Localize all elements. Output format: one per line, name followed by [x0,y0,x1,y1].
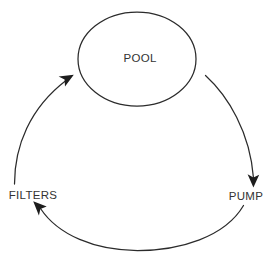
edge-filters-to-pool-line [15,81,67,185]
edge-pump-to-filters [33,201,243,250]
diagram-canvas: POOL PUMP FILTERS [0,0,276,261]
pool-circulation-diagram: POOL PUMP FILTERS [0,0,276,261]
edge-pump-to-filters-line [41,206,244,251]
edge-filters-to-pool [15,75,74,184]
node-label-filters: FILTERS [9,189,58,201]
edge-pool-to-pump [206,76,260,188]
node-label-pool: POOL [123,52,156,64]
edge-pool-to-pump-line [206,76,254,179]
node-label-pump: PUMP [229,190,263,202]
